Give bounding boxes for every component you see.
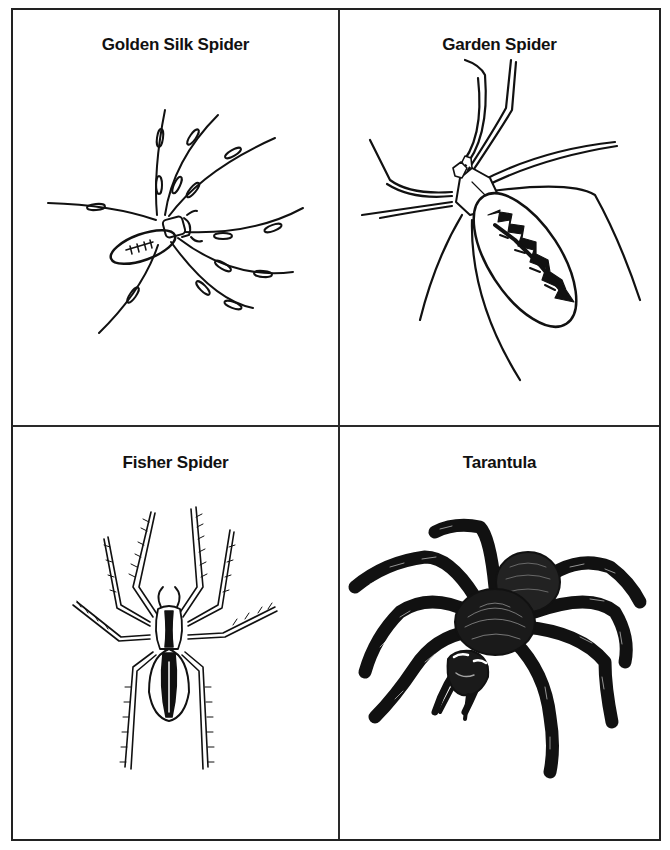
worksheet-frame: Golden Silk Spider [11,8,661,841]
golden-silk-spider-drawing [13,10,338,425]
panel-golden-silk-spider: Golden Silk Spider [13,10,338,425]
panel-tarantula: Tarantula [340,427,659,839]
tarantula-drawing [340,427,659,839]
garden-spider-drawing [340,10,659,425]
panel-garden-spider: Garden Spider [340,10,659,425]
panel-fisher-spider: Fisher Spider [13,427,338,839]
fisher-spider-drawing [13,427,338,839]
